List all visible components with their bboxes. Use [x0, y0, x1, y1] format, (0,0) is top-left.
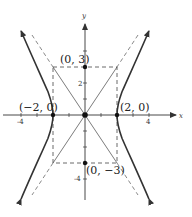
y-axis-label: y: [81, 12, 87, 20]
x-axis-label: x: [179, 112, 183, 120]
y-tick-label-neg4: -4: [74, 175, 81, 183]
y-tick-label-2: 2: [78, 80, 82, 88]
label-neg2-0: (−2, 0): [19, 101, 58, 114]
label-2-0: (2, 0): [120, 101, 150, 114]
origin-point: [82, 112, 88, 118]
point-2-0: [115, 113, 119, 117]
x-tick-label-4: 4: [146, 118, 151, 126]
label-0-neg3: (0, −3): [86, 164, 125, 177]
x-axis: x -4 4: [3, 112, 183, 126]
x-tick-label-neg4: -4: [17, 118, 24, 126]
hyperbola-diagram: x -4 4 y 2 -4 (0, 3) (0, −3) (−2, 0) (2,…: [0, 0, 192, 217]
label-0-3: (0, 3): [60, 53, 90, 66]
